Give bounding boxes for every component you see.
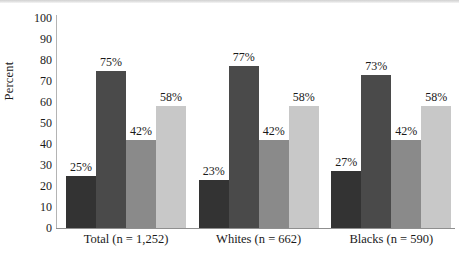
bar: 58% [289, 106, 319, 228]
y-tick-20: 20 [22, 180, 52, 192]
bar-value-label: 42% [395, 125, 417, 138]
y-tick-50: 50 [22, 117, 52, 129]
bar-group: 25%75%42%58% [66, 18, 186, 228]
y-tick-80: 80 [22, 54, 52, 66]
bar-group: 27%73%42%58% [331, 18, 451, 228]
x-axis-line [56, 228, 455, 229]
bar-value-label: 42% [263, 125, 285, 138]
bar: 23% [199, 180, 229, 228]
bar-group: 23%77%42%58% [199, 18, 319, 228]
bar: 75% [96, 71, 126, 229]
y-tick-30: 30 [22, 159, 52, 171]
bar: 58% [156, 106, 186, 228]
y-tick-10: 10 [22, 201, 52, 213]
bar-value-label: 77% [233, 51, 255, 64]
bar-chart-figure: Percent 1009080706050403020100 25%75%42%… [0, 0, 459, 261]
x-category-label: Blacks (n = 590) [311, 232, 459, 247]
bar-value-label: 27% [335, 156, 357, 169]
y-tick-70: 70 [22, 75, 52, 87]
y-tick-60: 60 [22, 96, 52, 108]
y-axis-tick-labels: 1009080706050403020100 [18, 0, 52, 261]
top-edge-rule [0, 0, 459, 3]
plot-area: 25%75%42%58%23%77%42%58%27%73%42%58% [57, 18, 455, 228]
bar-value-label: 58% [293, 91, 315, 104]
bar-value-label: 58% [160, 91, 182, 104]
bar: 42% [126, 140, 156, 228]
bar: 58% [421, 106, 451, 228]
bar: 73% [361, 75, 391, 228]
bar: 42% [259, 140, 289, 228]
bar-value-label: 25% [70, 161, 92, 174]
bar-value-label: 58% [425, 91, 447, 104]
bar: 42% [391, 140, 421, 228]
y-tick-100: 100 [22, 12, 52, 24]
bar-value-label: 42% [130, 125, 152, 138]
bar-value-label: 75% [100, 56, 122, 69]
bar: 77% [229, 66, 259, 228]
bar: 27% [331, 171, 361, 228]
bar-value-label: 73% [365, 60, 387, 73]
y-tick-40: 40 [22, 138, 52, 150]
y-tick-90: 90 [22, 33, 52, 45]
bar: 25% [66, 176, 96, 229]
bar-value-label: 23% [203, 165, 225, 178]
